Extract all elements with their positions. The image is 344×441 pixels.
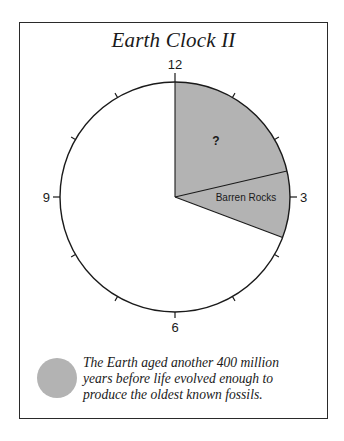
tick-1	[233, 93, 236, 97]
legend-caption: The Earth aged another 400 million years…	[83, 355, 323, 403]
hour-label-3: 3	[300, 190, 307, 205]
shaded-sector	[175, 82, 290, 238]
legend-line-3: produce the oldest known fossils.	[83, 387, 323, 403]
tick-8	[71, 255, 75, 258]
tick-2	[275, 137, 279, 140]
tick-5	[233, 297, 236, 301]
hour-label-9: 9	[43, 190, 50, 205]
hour-label-6: 6	[171, 320, 178, 335]
tick-10	[71, 137, 75, 140]
segment-label-unknown: ?	[212, 134, 219, 148]
legend-swatch	[37, 358, 77, 398]
tick-11	[115, 93, 118, 97]
tick-4	[275, 255, 279, 258]
hour-label-12: 12	[168, 57, 182, 72]
legend-line-1: The Earth aged another 400 million	[83, 355, 323, 371]
tick-7	[115, 297, 118, 301]
legend-line-2: years before life evolved enough to	[83, 371, 323, 387]
segment-label-barren-rocks: Barren Rocks	[216, 192, 277, 203]
